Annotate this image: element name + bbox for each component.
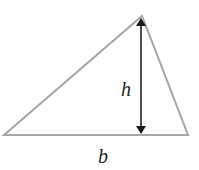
base-label: b bbox=[98, 145, 108, 167]
triangle-diagram: h b bbox=[0, 0, 199, 170]
height-label: h bbox=[121, 78, 131, 100]
triangle-shape bbox=[4, 16, 188, 135]
